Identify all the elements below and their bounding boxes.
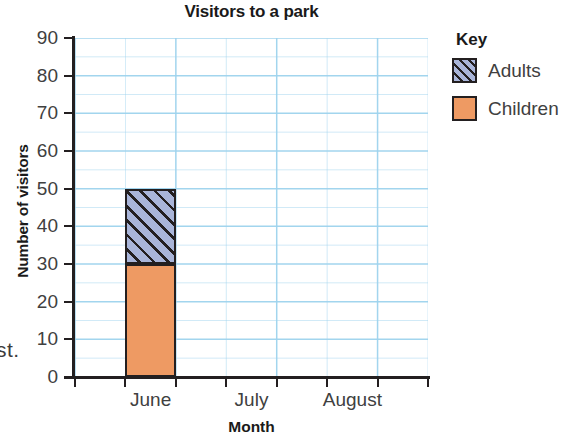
plot-area (75, 38, 428, 377)
x-axis-tick (427, 377, 429, 387)
x-axis-tick (225, 377, 227, 387)
y-axis-tick-label: 60 (18, 141, 58, 160)
y-axis-tick-label: 90 (18, 28, 58, 47)
y-axis-tick-label: 0 (18, 367, 58, 386)
y-axis-tick (64, 37, 75, 39)
bar-segment-june-adults (125, 189, 175, 264)
x-axis-tick (124, 377, 126, 387)
y-axis-line (72, 36, 75, 379)
y-axis-tick (64, 263, 75, 265)
y-axis-tick-label: 10 (18, 329, 58, 348)
legend-item-label: Adults (488, 61, 541, 80)
y-axis-tick-label: 20 (18, 292, 58, 311)
legend-item-adults: Adults (452, 58, 581, 83)
y-axis-tick-label: 70 (18, 103, 58, 122)
adults-swatch-icon (452, 58, 477, 83)
y-axis-labels: 0102030405060708090 (18, 0, 58, 441)
x-axis-title: Month (75, 418, 428, 436)
legend-items: AdultsChildren (452, 58, 581, 121)
chart-title: Visitors to a park (75, 2, 428, 22)
y-axis-tick (64, 338, 75, 340)
x-axis-tick-label-july: July (197, 390, 307, 409)
y-axis-tick (64, 301, 75, 303)
x-axis-tick (276, 377, 278, 387)
x-axis-tick (74, 377, 76, 387)
y-axis-tick (64, 225, 75, 227)
legend: Key AdultsChildren (452, 30, 581, 134)
x-axis-tick (175, 377, 177, 387)
y-axis-tick (64, 188, 75, 190)
x-axis-tick-label-june: June (96, 390, 206, 409)
y-axis-tick-label: 40 (18, 216, 58, 235)
y-axis-tick (64, 75, 75, 77)
y-axis-tick-label: 80 (18, 66, 58, 85)
bar-segment-june-children (125, 264, 175, 377)
chart-page: st. Visitors to a park Number of visitor… (0, 0, 581, 441)
legend-item-children: Children (452, 96, 581, 121)
x-axis-tick (326, 377, 328, 387)
children-swatch-icon (452, 96, 477, 121)
legend-title: Key (456, 30, 581, 50)
y-axis-tick-label: 50 (18, 179, 58, 198)
legend-item-label: Children (488, 99, 559, 118)
x-axis-tick-label-august: August (297, 390, 407, 409)
margin-text-fragment: st. (0, 338, 20, 362)
y-axis-tick (64, 150, 75, 152)
x-axis-tick (377, 377, 379, 387)
x-axis-line (64, 376, 430, 379)
y-axis-tick (64, 112, 75, 114)
y-axis-tick-label: 30 (18, 254, 58, 273)
